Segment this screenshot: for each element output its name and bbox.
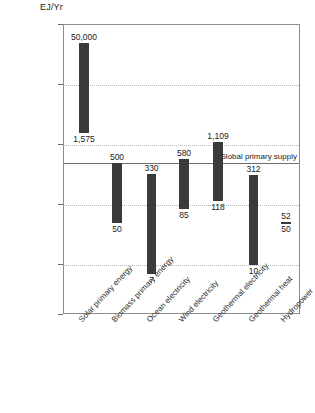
bar-min-label: 50 xyxy=(112,224,121,234)
bar-max-label: 1,109 xyxy=(207,131,228,141)
gridline xyxy=(64,145,299,146)
global-primary-supply-label: Global primary supply xyxy=(220,152,297,161)
y-axis-tick-mark xyxy=(58,314,63,315)
bar-min-label: 85 xyxy=(179,210,188,220)
range-bar xyxy=(147,174,157,274)
bar-max-label: 500 xyxy=(110,152,124,162)
bar-max-label: 580 xyxy=(177,148,191,158)
range-bar xyxy=(179,159,189,209)
bar-max-label: 312 xyxy=(246,164,260,174)
bar-min-label: 50 xyxy=(281,224,290,234)
bar-max-label: 330 xyxy=(144,163,158,173)
energy-potential-range-chart: EJ/Yr 100,00010,0001,000100100 Global pr… xyxy=(0,0,315,413)
bar-min-label: 118 xyxy=(211,202,225,212)
gridline xyxy=(64,85,299,86)
range-bar xyxy=(112,163,122,223)
range-bar xyxy=(79,43,89,133)
bar-max-label: 50,000 xyxy=(71,32,97,42)
bar-min-label: 1,575 xyxy=(73,134,94,144)
bar-max-label: 52 xyxy=(281,211,290,221)
range-bar xyxy=(213,142,223,200)
range-bar xyxy=(249,175,259,265)
